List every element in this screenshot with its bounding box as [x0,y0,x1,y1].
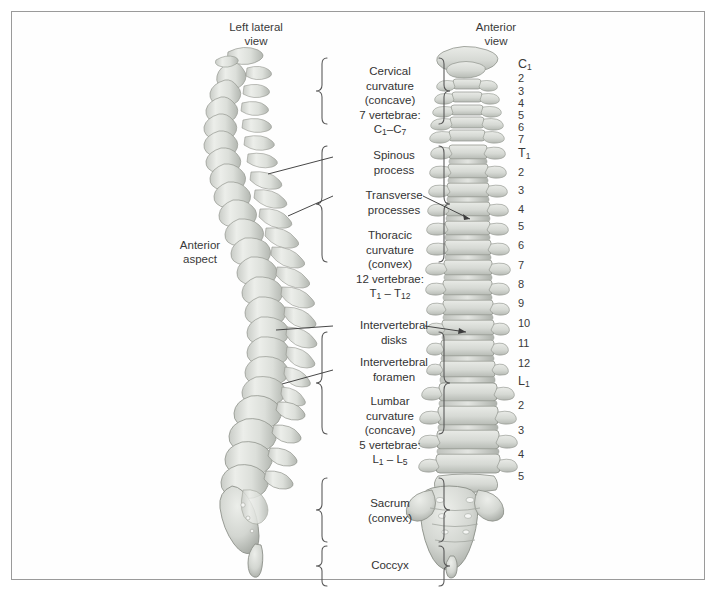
callout-intervertebral-foramen: Intervertebral foramen [334,355,454,384]
figure-root: Left lateral view Anterior view Anterior… [0,0,726,598]
vertebra-number-8: 8 [518,278,552,290]
cervical-range-prefix: C [374,123,382,135]
callout-intervertebral-disks: Intervertebral disks [334,318,454,347]
cervical-range-to: 7 [402,127,407,137]
vertebra-number-subscript: 1 [527,62,532,72]
region-label-sacrum: Sacrum (convex) [331,496,449,525]
vertebra-number-11: 11 [518,337,552,349]
vertebra-number-label: 7 [518,133,524,145]
region-sacrum-line1: Sacrum [331,496,449,511]
lumbar-range-dash: – [387,453,393,465]
vertebra-number-4: 4 [518,97,552,109]
thoracic-range-to-prefix: T [394,287,401,299]
region-cervical-line2: curvature [331,79,449,94]
thoracic-range-prefix: T [370,287,377,299]
region-thoracic-range: T1 – T12 [331,286,449,302]
thoracic-range-from: 1 [377,291,382,301]
vertebra-number-3: 3 [518,424,552,436]
vertebra-number-label: L [518,374,525,388]
region-label-coccyx: Coccyx [331,558,449,573]
header-anterior-view: Anterior view [420,20,572,48]
vertebra-number-T1: T1 [518,146,552,160]
vertebra-number-3: 3 [518,184,552,196]
region-thoracic-line3: (convex) [331,257,449,272]
vertebra-number-label: 6 [518,121,524,133]
vertebra-number-6: 6 [518,121,552,133]
header-left-lateral-view: Left lateral view [178,20,334,48]
region-lumbar-line3: (concave) [331,423,449,438]
vertebra-number-label: 3 [518,424,524,436]
vertebra-number-7: 7 [518,133,552,145]
region-thoracic-line1: Thoracic [331,228,449,243]
lumbar-range-prefix: L [372,453,378,465]
vertebra-number-label: 11 [518,337,529,349]
vertebra-number-2: 2 [518,399,552,411]
vertebra-number-12: 12 [518,357,552,369]
region-lumbar-line2: curvature [331,409,449,424]
vertebra-number-label: 4 [518,203,524,215]
vertebra-number-subscript: 1 [526,151,531,161]
region-cervical-line4: 7 vertebrae: [331,108,449,123]
vertebra-number-label: 4 [518,448,524,460]
vertebra-number-label: T [518,146,526,160]
vertebra-number-6: 6 [518,239,552,251]
region-cervical-line3: (concave) [331,93,449,108]
vertebra-number-L1: L1 [518,374,552,388]
vertebra-number-label: 5 [518,220,524,232]
region-label-cervical: Cervical curvature (concave) 7 vertebrae… [331,64,449,138]
vertebra-number-10: 10 [518,317,552,329]
vertebra-number-label: 2 [518,399,524,411]
vertebra-number-5: 5 [518,220,552,232]
callout-spinous-process: Spinous process [334,148,454,177]
vertebra-number-label: 9 [518,297,524,309]
cervical-range-to-prefix: C [393,123,401,135]
vertebra-number-label: 5 [518,109,524,121]
vertebra-number-4: 4 [518,203,552,215]
vertebra-number-C1: C1 [518,57,552,71]
vertebra-number-subscript: 1 [525,379,530,389]
region-label-lumbar: Lumbar curvature (concave) 5 vertebrae: … [331,394,449,468]
region-coccyx-line1: Coccyx [331,558,449,573]
vertebra-number-label: C [518,57,527,71]
vertebra-number-4: 4 [518,448,552,460]
lumbar-range-to: 5 [403,457,408,467]
thoracic-range-dash: – [385,287,391,299]
vertebra-number-5: 5 [518,109,552,121]
vertebra-number-label: 2 [518,166,524,178]
label-anterior-aspect: Anterior aspect [140,238,260,266]
vertebra-number-label: 2 [518,72,524,84]
region-lumbar-line4: 5 vertebrae: [331,438,449,453]
region-cervical-line1: Cervical [331,64,449,79]
vertebra-number-label: 12 [518,357,530,369]
cervical-range-from: 1 [382,127,387,137]
vertebra-number-label: 10 [518,317,530,329]
region-thoracic-line4: 12 vertebrae: [331,272,449,287]
region-thoracic-line2: curvature [331,243,449,258]
vertebra-number-2: 2 [518,166,552,178]
vertebra-number-label: 8 [518,278,524,290]
vertebra-number-3: 3 [518,85,552,97]
vertebra-number-5: 5 [518,470,552,482]
region-cervical-range: C1–C7 [331,122,449,138]
vertebra-number-label: 7 [518,259,524,271]
region-sacrum-line2: (convex) [331,511,449,526]
region-lumbar-range: L1 – L5 [331,452,449,468]
vertebra-number-2: 2 [518,72,552,84]
lumbar-range-from: 1 [379,457,384,467]
vertebra-number-label: 6 [518,239,524,251]
region-label-thoracic: Thoracic curvature (convex) 12 vertebrae… [331,228,449,302]
vertebra-number-9: 9 [518,297,552,309]
lumbar-range-to-prefix: L [396,453,402,465]
thoracic-range-to: 12 [401,291,410,301]
vertebra-number-label: 4 [518,97,524,109]
vertebra-number-label: 3 [518,184,524,196]
callout-transverse-processes: Transverse processes [334,188,454,217]
vertebra-number-label: 3 [518,85,524,97]
vertebra-number-7: 7 [518,259,552,271]
vertebra-number-label: 5 [518,470,524,482]
region-lumbar-line1: Lumbar [331,394,449,409]
